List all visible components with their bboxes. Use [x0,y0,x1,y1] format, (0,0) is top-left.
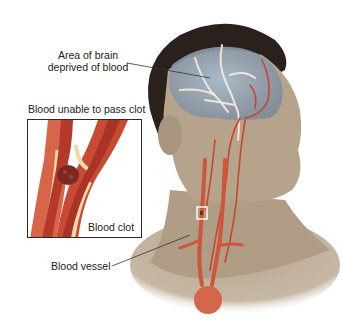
label-brain-area-line1: Area of brain [43,49,133,61]
aortic-arch [194,286,222,314]
label-brain-area: Area of brain deprived of blood [43,49,133,73]
clot [57,165,79,185]
label-vessel: Blood vessel [51,260,111,272]
label-inset-title: Blood unable to pass clot [28,103,145,115]
label-brain-area-line2: deprived of blood [43,61,133,73]
ear [158,115,182,155]
clot-closeup-inset: Blood clot [27,119,142,238]
label-clot: Blood clot [88,221,134,233]
